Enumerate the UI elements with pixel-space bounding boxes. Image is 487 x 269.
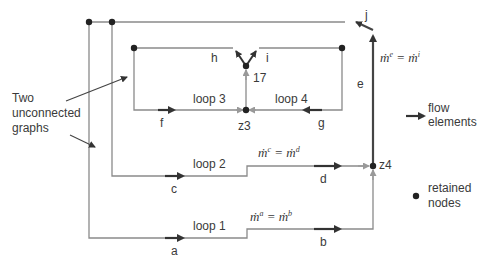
node-loop4-corner: [339, 45, 345, 51]
legend-node-icon: [413, 193, 419, 199]
node-z3: [243, 107, 249, 113]
equation-loop1: ṁa = ṁb: [250, 209, 292, 225]
element-i-label: i: [266, 52, 269, 65]
element-g-label: g: [318, 117, 325, 130]
element-j-label: j: [365, 9, 368, 22]
element-b-label: b: [320, 236, 327, 249]
flow-network-diagram: [0, 0, 487, 269]
inner-left-vertical: [112, 22, 368, 176]
node-z3-label: z3: [238, 120, 251, 133]
node-17: [243, 63, 249, 69]
legend-node-line2: nodes: [428, 197, 461, 210]
legend-flow-line2: elements: [428, 116, 477, 129]
legend-flow-line1: flow: [428, 102, 449, 115]
node-inner-top: [109, 19, 115, 25]
annotation-text-line2: unconnected: [12, 107, 81, 120]
loop1-label: loop 1: [193, 220, 226, 233]
loop2-label: loop 2: [193, 158, 226, 171]
element-j-arrow: [356, 22, 373, 30]
node-z4-label: z4: [379, 159, 392, 172]
annotation-text-line1: Two: [12, 92, 34, 105]
legend-node-line1: retained: [428, 182, 471, 195]
element-h-label: h: [211, 52, 218, 65]
equation-loop2: ṁc = ṁd: [258, 145, 300, 161]
node-z4: [370, 163, 376, 169]
loop4-label: loop 4: [275, 93, 308, 106]
equation-e-i: ṁe = ṁi: [380, 50, 420, 66]
node-17-label: 17: [253, 72, 266, 85]
element-d-label: d: [320, 173, 327, 186]
annotation-arrow-upper: [66, 77, 127, 101]
loop3-left: [134, 48, 243, 110]
element-a-label: a: [171, 245, 178, 258]
loop3-label: loop 3: [193, 93, 226, 106]
annotation-text-line3: graphs: [12, 122, 49, 135]
element-c-label: c: [171, 183, 177, 196]
node-loop3-corner: [131, 45, 137, 51]
node-outer-top: [86, 19, 92, 25]
annotation-arrow-lower: [70, 135, 95, 147]
outer-left-vertical: [89, 22, 373, 238]
element-f-label: f: [160, 117, 163, 130]
element-e-label: e: [357, 78, 364, 91]
